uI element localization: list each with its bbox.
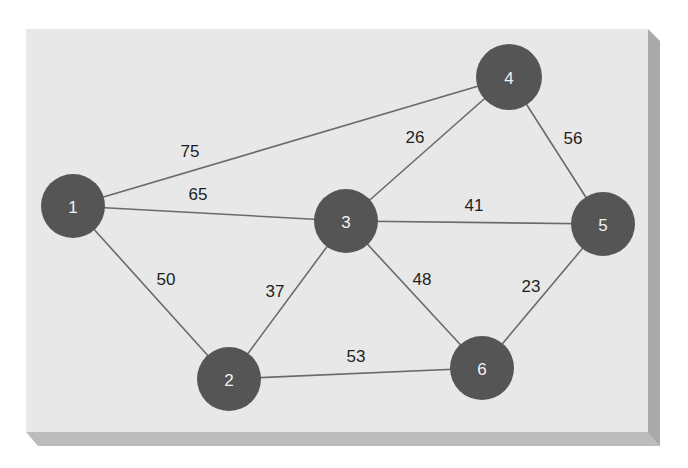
- node-label: 5: [598, 216, 607, 235]
- edge-weight-label: 75: [181, 142, 200, 161]
- node-6: 6: [450, 336, 514, 400]
- edge-weight-label: 26: [406, 128, 425, 147]
- edge-weight-label: 50: [157, 270, 176, 289]
- node-4: 4: [476, 44, 542, 110]
- node-5: 5: [571, 192, 635, 256]
- edge-weight-label: 53: [347, 347, 366, 366]
- edge-weight-label: 48: [413, 270, 432, 289]
- edge-weight-label: 65: [189, 185, 208, 204]
- edge-weight-label: 37: [266, 282, 285, 301]
- node-2: 2: [197, 347, 261, 411]
- panel-right-side: [648, 29, 660, 446]
- node-label: 6: [477, 360, 486, 379]
- node-label: 1: [68, 198, 77, 217]
- edge-weight-label: 23: [522, 277, 541, 296]
- node-1: 1: [41, 174, 105, 238]
- node-3: 3: [314, 189, 378, 253]
- node-label: 2: [224, 371, 233, 390]
- edge-weight-label: 56: [564, 129, 583, 148]
- network-diagram: 75655026564137482353 123456: [0, 0, 688, 468]
- node-label: 4: [504, 69, 513, 88]
- panel-bottom-side: [26, 432, 660, 446]
- edge-weight-label: 41: [465, 196, 484, 215]
- node-label: 3: [341, 213, 350, 232]
